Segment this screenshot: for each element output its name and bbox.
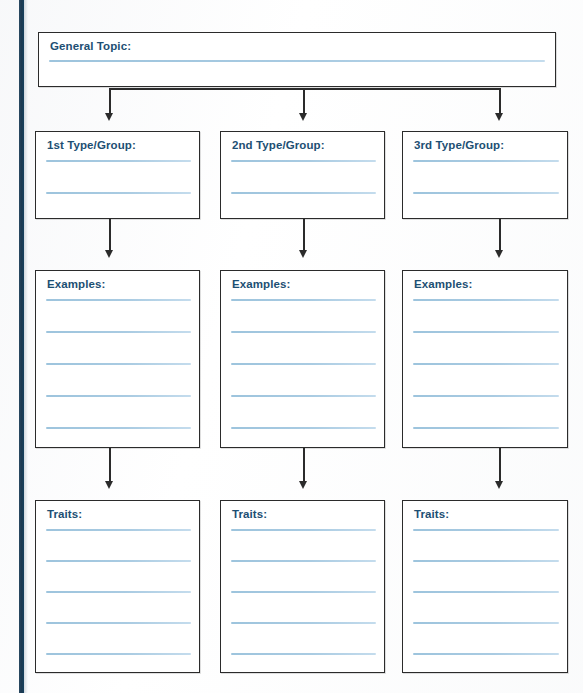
type-group-box-3[interactable]: 3rd Type/Group:: [402, 131, 568, 219]
topic-stem-col1: [109, 88, 111, 115]
examples-box-1[interactable]: Examples:: [35, 270, 200, 448]
examples-rule-3-3[interactable]: [413, 363, 559, 365]
examples-rule-1-4[interactable]: [46, 395, 191, 397]
arrow-down-icon: [495, 250, 503, 258]
arrow-down-icon: [299, 250, 307, 258]
general-topic-rule-1[interactable]: [49, 60, 545, 62]
type-group-rule-3-2[interactable]: [413, 192, 559, 194]
traits-rule-1-4[interactable]: [46, 622, 191, 624]
type-to-examples-stem-col3: [499, 219, 501, 252]
examples-rule-3-2[interactable]: [413, 331, 559, 333]
traits-rule-2-5[interactable]: [231, 653, 376, 655]
examples-label-3: Examples:: [414, 278, 472, 290]
traits-rule-1-2[interactable]: [46, 560, 191, 562]
traits-rule-3-2[interactable]: [413, 560, 559, 562]
traits-rule-3-4[interactable]: [413, 622, 559, 624]
examples-box-3[interactable]: Examples:: [402, 270, 568, 448]
type-group-rule-2-2[interactable]: [231, 192, 376, 194]
traits-rule-1-1[interactable]: [46, 529, 191, 531]
type-group-box-2[interactable]: 2nd Type/Group:: [220, 131, 385, 219]
type-group-rule-1-2[interactable]: [46, 192, 191, 194]
type-group-rule-2-1[interactable]: [231, 160, 376, 162]
examples-rule-1-1[interactable]: [46, 299, 191, 301]
examples-to-traits-stem-col1: [109, 448, 111, 483]
traits-rule-2-3[interactable]: [231, 591, 376, 593]
examples-rule-3-4[interactable]: [413, 395, 559, 397]
examples-rule-2-3[interactable]: [231, 363, 376, 365]
worksheet-page: General Topic: 1st Type/Group: 2nd Type/…: [0, 0, 583, 693]
examples-rule-1-2[interactable]: [46, 331, 191, 333]
traits-rule-2-2[interactable]: [231, 560, 376, 562]
traits-box-3[interactable]: Traits:: [402, 500, 568, 673]
arrow-down-icon: [299, 113, 307, 121]
type-group-box-1[interactable]: 1st Type/Group:: [35, 131, 200, 219]
traits-label-1: Traits:: [47, 508, 82, 520]
traits-box-2[interactable]: Traits:: [220, 500, 385, 673]
general-topic-box[interactable]: General Topic:: [38, 32, 556, 87]
traits-label-3: Traits:: [414, 508, 449, 520]
arrow-down-icon: [495, 113, 503, 121]
arrow-down-icon: [105, 481, 113, 489]
traits-rule-2-4[interactable]: [231, 622, 376, 624]
traits-rule-3-3[interactable]: [413, 591, 559, 593]
traits-rule-1-5[interactable]: [46, 653, 191, 655]
topic-stem-col2: [303, 88, 305, 115]
examples-box-2[interactable]: Examples:: [220, 270, 385, 448]
examples-rule-2-2[interactable]: [231, 331, 376, 333]
arrow-down-icon: [105, 250, 113, 258]
binding-bar-shadow: [24, 0, 28, 693]
type-group-rule-3-1[interactable]: [413, 160, 559, 162]
examples-rule-3-5[interactable]: [413, 427, 559, 429]
arrow-down-icon: [495, 481, 503, 489]
traits-rule-3-5[interactable]: [413, 653, 559, 655]
type-group-label-2: 2nd Type/Group:: [232, 139, 325, 151]
examples-rule-3-1[interactable]: [413, 299, 559, 301]
examples-rule-2-5[interactable]: [231, 427, 376, 429]
examples-to-traits-stem-col3: [499, 448, 501, 483]
traits-label-2: Traits:: [232, 508, 267, 520]
examples-rule-1-3[interactable]: [46, 363, 191, 365]
traits-rule-2-1[interactable]: [231, 529, 376, 531]
topic-stem-col3: [499, 88, 501, 115]
examples-label-1: Examples:: [47, 278, 105, 290]
examples-label-2: Examples:: [232, 278, 290, 290]
traits-box-1[interactable]: Traits:: [35, 500, 200, 673]
arrow-down-icon: [299, 481, 307, 489]
traits-rule-1-3[interactable]: [46, 591, 191, 593]
examples-rule-2-4[interactable]: [231, 395, 376, 397]
arrow-down-icon: [105, 113, 113, 121]
type-to-examples-stem-col1: [109, 219, 111, 252]
examples-rule-2-1[interactable]: [231, 299, 376, 301]
examples-rule-1-5[interactable]: [46, 427, 191, 429]
type-group-label-1: 1st Type/Group:: [47, 139, 136, 151]
type-group-label-3: 3rd Type/Group:: [414, 139, 504, 151]
type-group-rule-1-1[interactable]: [46, 160, 191, 162]
general-topic-label: General Topic:: [50, 40, 131, 52]
type-to-examples-stem-col2: [303, 219, 305, 252]
examples-to-traits-stem-col2: [303, 448, 305, 483]
traits-rule-3-1[interactable]: [413, 529, 559, 531]
